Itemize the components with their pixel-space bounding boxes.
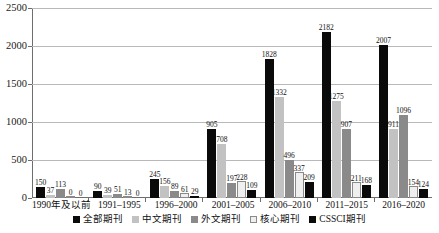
bar: 124 (419, 189, 428, 198)
x-axis-label: 1996–2000 (148, 200, 205, 210)
bar: 496 (285, 160, 294, 198)
bar-value-label: 29 (191, 188, 199, 196)
chart-legend: 全部期刊中文期刊外文期刊核心期刊CSSCI期刊 (0, 215, 439, 225)
bar-group: 21821275907211168 (318, 8, 375, 198)
bar-value-label: 124 (418, 181, 429, 189)
x-axis-labels: 1990年及以前1991–19951996–20002001–20052006–… (32, 200, 432, 210)
bar: 0 (66, 196, 75, 198)
bar: 905 (207, 129, 216, 198)
bar-value-label: 0 (69, 189, 73, 197)
bar: 13 (123, 196, 132, 198)
bar-group: 905708197228109 (203, 8, 260, 198)
bar-value-label: 0 (136, 190, 140, 198)
bar-value-label: 113 (55, 181, 66, 189)
bar-value-label: 1275 (329, 93, 344, 101)
bar-groups: 1503711300903951130245156896129905708197… (32, 8, 432, 198)
legend-item[interactable]: 外文期刊 (191, 215, 241, 225)
legend-item[interactable]: 中文期刊 (132, 215, 182, 225)
bar-value-label: 89 (171, 183, 179, 191)
bar-value-label: 0 (79, 190, 83, 198)
legend-item[interactable]: CSSCI期刊 (309, 215, 365, 225)
bar-group: 245156896129 (146, 8, 203, 198)
bar-value-label: 37 (47, 187, 55, 195)
bar: 197 (227, 183, 236, 198)
legend-swatch-icon (250, 216, 257, 223)
bar: 211 (352, 182, 361, 198)
legend-swatch-icon (73, 216, 80, 223)
bar-value-label: 905 (206, 121, 217, 129)
bar: 37 (46, 195, 55, 198)
x-axis-label: 2006–2010 (261, 200, 318, 210)
plot-area: 05001000150020002500 1503711300903951130… (32, 8, 432, 198)
bar: 168 (362, 185, 371, 198)
bar-value-label: 1332 (272, 89, 287, 97)
y-axis-tick-label: 2500 (6, 3, 27, 14)
y-axis-tick-label: 2000 (6, 41, 27, 52)
bar: 1275 (332, 101, 341, 198)
bar-value-label: 1096 (396, 107, 411, 115)
bar-chart: 05001000150020002500 1503711300903951130… (0, 0, 439, 233)
bar-value-label: 156 (159, 178, 170, 186)
bar: 154 (409, 186, 418, 198)
bar: 1332 (275, 97, 284, 198)
legend-item[interactable]: 核心期刊 (250, 215, 300, 225)
y-axis-tick-label: 1500 (6, 79, 27, 90)
bar-value-label: 168 (361, 177, 372, 185)
bar-value-label: 90 (94, 183, 102, 191)
x-axis-label: 2001–2005 (205, 200, 262, 210)
bar-value-label: 2007 (376, 37, 391, 45)
y-axis-tick (28, 198, 32, 199)
y-axis-tick-label: 1000 (6, 117, 27, 128)
y-axis-tick-label: 500 (11, 155, 27, 166)
legend-label: 全部期刊 (83, 215, 123, 225)
bar: 1828 (265, 59, 274, 198)
bar-value-label: 61 (181, 186, 189, 194)
bar: 61 (180, 193, 189, 198)
bar-value-label: 2182 (319, 24, 334, 32)
bar: 156 (160, 186, 169, 198)
bar: 911 (389, 129, 398, 198)
x-axis-label: 2011–2015 (318, 200, 375, 210)
bar-value-label: 708 (216, 136, 227, 144)
bar: 907 (342, 129, 351, 198)
bar: 109 (247, 190, 256, 198)
bar-group: 20079111096154124 (375, 8, 432, 198)
bar-value-label: 337 (294, 165, 305, 173)
bar-value-label: 13 (124, 189, 132, 197)
bar: 89 (170, 191, 179, 198)
legend-swatch-icon (191, 216, 198, 223)
legend-item[interactable]: 全部期刊 (73, 215, 123, 225)
bar-group: 903951130 (89, 8, 146, 198)
bar: 2007 (379, 45, 388, 198)
bar: 51 (113, 194, 122, 198)
bar: 113 (56, 189, 65, 198)
legend-swatch-icon (132, 216, 139, 223)
bar-value-label: 39 (104, 187, 112, 195)
legend-label: 外文期刊 (201, 215, 241, 225)
bar: 39 (103, 195, 112, 198)
bar-value-label: 51 (114, 186, 122, 194)
legend-label: 核心期刊 (260, 215, 300, 225)
legend-label: CSSCI期刊 (319, 215, 365, 225)
bar-value-label: 911 (388, 121, 399, 129)
bar: 1096 (399, 115, 408, 198)
bar-value-label: 907 (341, 121, 352, 129)
x-axis-label: 1990年及以前 (32, 200, 91, 210)
bar: 708 (217, 144, 226, 198)
x-axis-label: 1991–1995 (91, 200, 148, 210)
bar-value-label: 109 (246, 182, 257, 190)
bar-value-label: 209 (304, 174, 315, 182)
legend-label: 中文期刊 (142, 215, 182, 225)
bar-value-label: 150 (35, 179, 46, 187)
bar-group: 1503711300 (32, 8, 89, 198)
bar: 209 (305, 182, 314, 198)
bar: 245 (150, 179, 159, 198)
bar: 2182 (322, 32, 331, 198)
x-axis-label: 2016–2020 (375, 200, 432, 210)
bar-group: 18281332496337209 (261, 8, 318, 198)
bar: 337 (295, 172, 304, 198)
bar: 90 (93, 191, 102, 198)
legend-swatch-icon (309, 216, 316, 223)
bar: 228 (237, 181, 246, 198)
bar-value-label: 1828 (262, 51, 277, 59)
